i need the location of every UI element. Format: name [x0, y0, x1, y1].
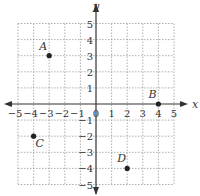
- x-tick-label: −5: [8, 108, 23, 119]
- point-a: [47, 53, 52, 58]
- x-tick-label: 5: [171, 108, 177, 119]
- x-tick-label: 0: [93, 108, 99, 119]
- y-tick-label: 5: [87, 19, 93, 30]
- point-label-c: C: [36, 137, 45, 150]
- y-tick-label: −1: [78, 115, 93, 126]
- point-d: [125, 166, 130, 171]
- y-tick-label: 2: [87, 67, 93, 78]
- x-tick-label: 3: [140, 108, 146, 119]
- y-tick-label: 3: [87, 51, 93, 62]
- x-tick-label: −2: [54, 108, 69, 119]
- point-label-d: D: [116, 152, 126, 165]
- x-axis-label: x: [192, 98, 199, 111]
- y-axis-label: y: [92, 0, 100, 13]
- y-tick-label: −3: [78, 147, 93, 158]
- point-label-b: B: [147, 88, 156, 101]
- x-tick-label: −4: [23, 108, 38, 119]
- x-tick-label: −3: [39, 108, 54, 119]
- x-tick-label: 2: [124, 108, 130, 119]
- x-tick-label: 4: [155, 108, 161, 119]
- y-tick-label: −4: [78, 163, 93, 174]
- coordinate-plane: xy −5−4−3−2−101234554321−1−2−3−4−5 ABCD: [0, 0, 200, 196]
- point-label-a: A: [38, 40, 47, 53]
- x-axis-right-arrow-icon: [180, 101, 188, 107]
- y-tick-label: 1: [87, 83, 93, 94]
- y-axis-down-arrow-icon: [93, 187, 99, 195]
- y-tick-label: 4: [87, 35, 93, 46]
- x-tick-label: 1: [108, 108, 114, 119]
- y-tick-label: −2: [78, 131, 93, 142]
- y-tick-label: −5: [78, 180, 93, 191]
- x-axis-left-arrow-icon: [4, 101, 12, 107]
- point-b: [156, 101, 161, 106]
